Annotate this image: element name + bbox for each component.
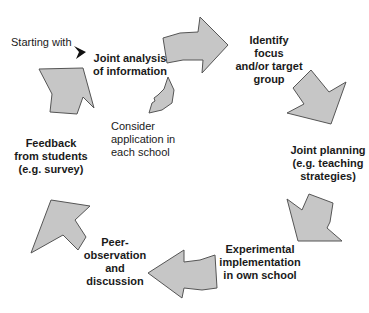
step-line: Experimental (212, 243, 308, 256)
step-peer: Peer- observation and discussion (80, 236, 150, 288)
start-pointer-icon (74, 46, 86, 59)
step-line: Joint analysis (90, 52, 170, 65)
step-line: Joint planning (288, 144, 368, 157)
step-line: focus (228, 47, 310, 60)
step-line: discussion (80, 275, 150, 288)
arrow-planning-to-implement (287, 194, 342, 241)
arrow-implement-to-peer (148, 250, 217, 298)
step-line: and/or target (228, 60, 310, 73)
step-line: and (80, 262, 150, 275)
arrow-feedback-to-analysis (39, 68, 94, 114)
step-planning: Joint planning (e.g. teaching strategies… (288, 144, 368, 183)
step-line: of information (90, 65, 170, 78)
step-line: observation (80, 249, 150, 262)
note-line: each school (111, 146, 175, 159)
step-line: (e.g. teaching (288, 157, 368, 170)
note-line: application in (111, 133, 175, 146)
step-focus: Identify focus and/or target group (228, 34, 310, 86)
start-label: Starting with (11, 36, 72, 49)
step-line: implementation (212, 256, 308, 269)
step-feedback: Feedback from students (e.g. survey) (8, 137, 94, 176)
step-line: strategies) (288, 170, 368, 183)
step-implement: Experimental implementation in own schoo… (212, 243, 308, 282)
step-line: Identify (228, 34, 310, 47)
arrow-analysis-to-focus (163, 17, 228, 73)
step-line: (e.g. survey) (8, 163, 94, 176)
note-line: Consider (111, 120, 175, 133)
arrow-consider-application (149, 77, 174, 113)
step-line: from students (8, 150, 94, 163)
step-line: in own school (212, 269, 308, 282)
step-analysis: Joint analysis of information (90, 52, 170, 78)
side-note-consider: Consider application in each school (111, 120, 175, 159)
step-line: Feedback (8, 137, 94, 150)
step-line: group (228, 73, 310, 86)
step-line: Peer- (80, 236, 150, 249)
